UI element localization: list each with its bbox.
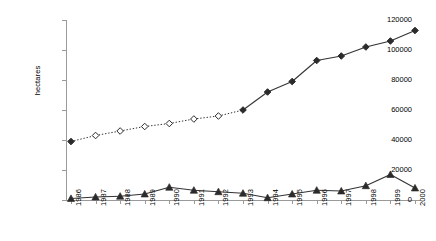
data-point-triangle (166, 184, 173, 191)
x-tick-mark (218, 200, 219, 204)
line-chart: hectares 0200004000060000800001000001200… (0, 0, 436, 241)
x-tick-mark (341, 200, 342, 204)
plot-area: 020000400006000080000100000120000 198619… (66, 20, 420, 200)
series-segment (145, 124, 170, 127)
series-segment (268, 82, 293, 93)
series-segment (194, 116, 219, 119)
series-segment (169, 119, 194, 124)
x-tick-mark (317, 200, 318, 204)
series-segment (145, 187, 170, 194)
series-segment (218, 192, 243, 194)
series-segment (243, 92, 268, 110)
data-point-diamond-hollow (215, 113, 222, 120)
x-tick-mark (169, 200, 170, 204)
y-axis-title: hectares (33, 46, 42, 116)
series-segment (120, 127, 145, 132)
data-point-triangle (411, 184, 418, 191)
series-segment (194, 190, 219, 192)
data-point-diamond-hollow (92, 132, 99, 139)
data-point-diamond-hollow (141, 123, 148, 130)
x-tick-mark (366, 200, 367, 204)
series-segment (120, 194, 145, 196)
x-tick-mark (96, 200, 97, 204)
series-segment (390, 31, 415, 42)
series-segment (96, 196, 121, 197)
series-segment (71, 136, 96, 142)
series-segment (341, 47, 366, 56)
x-tick-mark (292, 200, 293, 204)
y-tick-mark (62, 200, 66, 201)
series-segment (71, 197, 96, 199)
series-segment (390, 175, 415, 189)
series-segment (366, 41, 391, 47)
x-tick-mark (415, 200, 416, 204)
data-point-diamond-filled (412, 27, 419, 34)
data-point-diamond-filled (338, 53, 345, 60)
series-segment (96, 131, 121, 136)
series-layer (66, 20, 420, 200)
data-point-triangle (387, 171, 394, 178)
x-tick-mark (120, 200, 121, 204)
x-tick-mark (243, 200, 244, 204)
data-point-triangle (362, 182, 369, 189)
series-segment (218, 110, 243, 116)
x-tick-mark (145, 200, 146, 204)
data-point-diamond-hollow (166, 120, 173, 127)
series-segment (317, 190, 342, 191)
x-tick-mark (194, 200, 195, 204)
data-point-diamond-filled (68, 138, 75, 145)
series-segment (292, 61, 317, 82)
data-point-diamond-filled (363, 44, 370, 51)
data-point-diamond-filled (387, 38, 394, 45)
data-point-diamond-hollow (191, 116, 198, 123)
series-segment (317, 56, 342, 61)
series-segment (366, 175, 391, 186)
data-point-diamond-hollow (117, 128, 124, 135)
x-tick-mark (390, 200, 391, 204)
series-segment (243, 193, 268, 198)
